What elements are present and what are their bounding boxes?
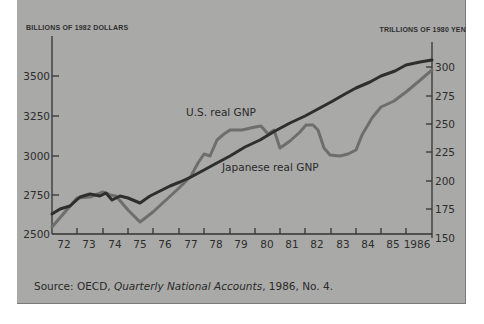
x-tick-label: 76 (158, 238, 172, 250)
right-axis-title: TRILLIONS OF 1980 YEN (379, 26, 466, 33)
source-publication: Quarterly National Accounts (114, 280, 262, 292)
x-tick-label: 1986 (404, 238, 431, 250)
us-gnp-label: U.S. real GNP (186, 106, 256, 118)
left-tick-label: 3250 (23, 110, 50, 122)
right-tick-label: 200 (435, 175, 455, 187)
left-tick-label: 2750 (23, 189, 50, 201)
x-tick-label: 77 (184, 238, 197, 250)
x-tick-label: 82 (310, 238, 323, 250)
right-tick-label: 225 (435, 146, 455, 158)
left-axis-tick-labels: 2500 2750 3000 3250 3500 (23, 70, 50, 240)
source-suffix: , 1986, No. 4. (262, 280, 333, 292)
x-tick-label: 75 (133, 238, 146, 250)
x-tick-label: 72 (57, 238, 70, 250)
right-tick-label: 250 (435, 118, 455, 130)
x-axis-ticks (77, 228, 406, 234)
japan-gnp-label: Japanese real GNP (221, 161, 319, 173)
japan-gnp-line (52, 60, 432, 214)
left-axis (52, 36, 432, 234)
x-axis-tick-labels: 72 73 74 75 76 77 78 79 80 81 82 83 84 8… (57, 238, 430, 250)
source-note: Source: OECD, Quarterly National Account… (34, 280, 333, 292)
x-tick-label: 73 (82, 238, 95, 250)
left-tick-label: 2500 (23, 228, 50, 240)
x-tick-label: 83 (336, 238, 349, 250)
x-tick-label: 85 (386, 238, 399, 250)
right-tick-label: 150 (435, 232, 455, 244)
x-tick-label: 74 (108, 238, 122, 250)
x-tick-label: 78 (209, 238, 222, 250)
right-axis-tick-labels: 150 175 200 225 250 275 300 (435, 61, 455, 244)
left-tick-label: 3500 (23, 70, 50, 82)
x-tick-label: 81 (285, 238, 298, 250)
right-tick-label: 275 (435, 90, 455, 102)
left-axis-title: BILLIONS OF 1982 DOLLARS (26, 24, 129, 31)
source-prefix: Source: OECD, (34, 280, 114, 292)
x-tick-label: 80 (260, 238, 273, 250)
right-tick-label: 300 (435, 61, 455, 73)
x-tick-label: 79 (234, 238, 247, 250)
x-tick-label: 84 (361, 238, 375, 250)
right-tick-label: 175 (435, 203, 455, 215)
left-tick-label: 3000 (23, 150, 50, 162)
gnp-line-chart: BILLIONS OF 1982 DOLLARS TRILLIONS OF 19… (0, 0, 484, 324)
